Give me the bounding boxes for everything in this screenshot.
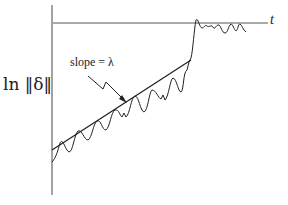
x-axis-label: t <box>270 12 274 28</box>
trajectory-curve <box>52 19 246 162</box>
lyapunov-diagram: ln ‖δ‖ slope = λ t <box>0 0 288 205</box>
y-axis-label: ln ‖δ‖ <box>3 74 52 94</box>
slope-line <box>52 60 191 150</box>
diagram-canvas <box>0 0 288 205</box>
annotation-arrow <box>88 76 123 99</box>
slope-annotation: slope = λ <box>70 55 114 70</box>
